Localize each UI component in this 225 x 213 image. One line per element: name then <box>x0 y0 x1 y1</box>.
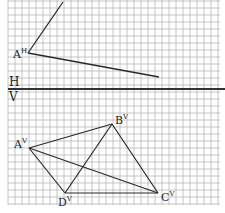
edge-ab <box>29 124 112 148</box>
point-label-c-v: CV <box>161 190 175 204</box>
projection-line <box>28 2 63 53</box>
point-label-d-v: DV <box>58 195 73 209</box>
projection-diagram: HV AH AVBVCVDV <box>0 0 225 213</box>
horizontal-view: AH <box>12 2 159 77</box>
point-label-a-h: AH <box>12 47 27 61</box>
ground-line-h-v: HV <box>8 75 225 104</box>
graph-paper-grid <box>8 0 220 205</box>
point-label-a-v: AV <box>13 137 28 151</box>
label-h: H <box>9 75 19 89</box>
label-v: V <box>8 90 18 104</box>
